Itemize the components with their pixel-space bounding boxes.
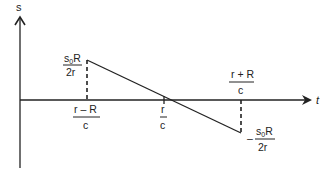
svg-text:2r: 2r xyxy=(258,141,268,153)
svg-text:r – R: r – R xyxy=(74,103,97,115)
svg-text:s0R: s0R xyxy=(256,125,273,138)
signal-diagram: s t s0R 2r r – R c r c r + R c – s0R 2r xyxy=(0,0,328,175)
peak-label: s0R 2r xyxy=(63,52,82,78)
svg-text:s0R: s0R xyxy=(64,52,81,65)
svg-text:c: c xyxy=(238,84,243,96)
trough-label: – s0R 2r xyxy=(247,125,275,153)
tick-label-r-over-c: r c xyxy=(160,103,167,131)
svg-text:c: c xyxy=(83,119,88,131)
svg-text:2r: 2r xyxy=(66,66,76,78)
t-axis-label: t xyxy=(316,94,320,106)
svg-text:r: r xyxy=(161,103,165,115)
tick-label-r-plus-R-over-c: r + R c xyxy=(229,68,254,96)
tick-label-r-minus-R-over-c: r – R c xyxy=(73,103,100,131)
svg-text:–: – xyxy=(247,132,253,144)
y-axis-label: s xyxy=(16,1,22,13)
svg-text:c: c xyxy=(160,119,165,131)
svg-text:r + R: r + R xyxy=(231,68,254,80)
